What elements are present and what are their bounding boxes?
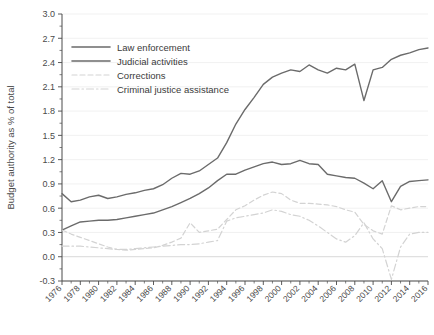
x-tick-label: 2002 (281, 283, 302, 304)
x-tick-label: 1998 (244, 283, 265, 304)
y-tick-label: 2.7 (42, 34, 55, 44)
legend-label-law-enforcement: Law enforcement (117, 42, 190, 53)
legend-label-judicial-activities: Judicial activities (117, 56, 188, 67)
x-tick-label: 1992 (189, 283, 210, 304)
x-tick-label: 1980 (80, 283, 101, 304)
y-tick-label: 0.3 (42, 228, 55, 238)
x-tick-label: 2000 (263, 283, 284, 304)
y-tick-label: 1.5 (42, 131, 55, 141)
series-line-criminal-justice-assistance (62, 210, 428, 280)
x-tick-label: 1986 (134, 283, 155, 304)
x-tick-label: 1978 (61, 283, 82, 304)
y-tick-label: 3.0 (42, 9, 55, 19)
y-tick-label: 0.6 (42, 204, 55, 214)
y-tick-label: 0.0 (42, 252, 55, 262)
x-tick-label: 2014 (391, 283, 412, 304)
legend-label-corrections: Corrections (117, 70, 166, 81)
y-tick-label: 1.8 (42, 106, 55, 116)
series-line-corrections (62, 192, 428, 250)
x-tick-label: 2010 (354, 283, 375, 304)
legend-label-criminal-justice-assistance: Criminal justice assistance (117, 84, 229, 95)
x-tick-label: 2004 (299, 283, 320, 304)
x-tick-label: 2006 (317, 283, 338, 304)
chart-container: 3.02.72.42.11.81.51.20.90.60.30.0-0.3197… (0, 0, 434, 335)
x-tick-label: 1982 (98, 283, 119, 304)
y-tick-label: 2.1 (42, 82, 55, 92)
x-tick-label: 1988 (153, 283, 174, 304)
x-tick-label: 2012 (372, 283, 393, 304)
series-line-judicial-activities (62, 160, 428, 230)
x-tick-label: 2008 (336, 283, 357, 304)
x-tick-label: 2016 (409, 283, 430, 304)
y-axis-title: Budget authority as % of total (5, 85, 16, 209)
y-tick-label: 0.9 (42, 179, 55, 189)
line-chart: 3.02.72.42.11.81.51.20.90.60.30.0-0.3197… (0, 0, 434, 335)
x-tick-label: 1994 (208, 283, 229, 304)
y-tick-label: -0.3 (39, 276, 55, 286)
x-tick-label: 1990 (171, 283, 192, 304)
y-tick-label: 2.4 (42, 58, 55, 68)
x-tick-label: 1996 (226, 283, 247, 304)
x-tick-label: 1984 (116, 283, 137, 304)
y-tick-label: 1.2 (42, 155, 55, 165)
